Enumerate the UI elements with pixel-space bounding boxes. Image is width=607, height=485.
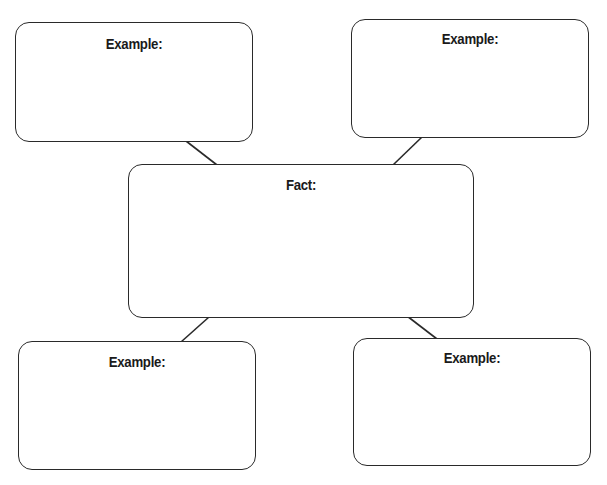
example-label: Example:: [30, 35, 238, 52]
connector-bottom-left: [181, 317, 209, 342]
connector-top-left: [186, 141, 217, 165]
connector-bottom-right: [407, 316, 437, 339]
example-label: Example:: [33, 353, 241, 370]
example-box-top-right[interactable]: Example:: [351, 19, 589, 138]
example-box-bottom-right[interactable]: Example:: [353, 338, 591, 466]
example-label: Example:: [366, 30, 574, 47]
connector-top-right: [393, 137, 422, 165]
example-box-top-left[interactable]: Example:: [15, 22, 253, 142]
fact-label: Fact:: [150, 176, 453, 193]
fact-box[interactable]: Fact:: [128, 164, 474, 318]
example-box-bottom-left[interactable]: Example:: [18, 341, 256, 470]
example-label: Example:: [368, 349, 576, 366]
